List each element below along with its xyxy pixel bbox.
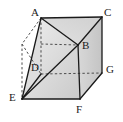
vertex-label-b: B: [82, 40, 89, 51]
vertex-label-g: G: [106, 64, 114, 75]
vertex-label-f: F: [76, 104, 82, 115]
vertex-label-c: C: [104, 7, 111, 18]
vertex-label-e: E: [9, 92, 16, 103]
geometry-figure: A C B G D E F: [0, 0, 123, 122]
cube-diagram-svg: [0, 0, 123, 122]
vertex-label-d: D: [31, 62, 39, 73]
vertex-label-a: A: [31, 7, 39, 18]
